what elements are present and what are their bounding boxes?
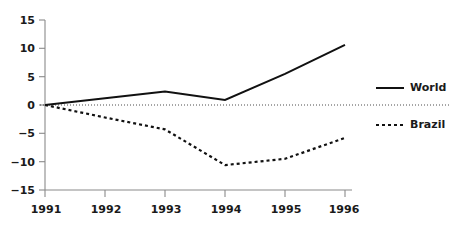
chart-canvas: 15 10 5 0 −5 −10 −15 1991 1992 1993 1994…	[0, 0, 449, 235]
x-tick-label-1995: 1995	[271, 203, 302, 216]
x-tick-label-1991: 1991	[31, 203, 62, 216]
line-chart: 15 10 5 0 −5 −10 −15 1991 1992 1993 1994…	[0, 0, 449, 235]
y-tick-label-10: 10	[20, 42, 36, 55]
legend-label-brazil: Brazil	[410, 118, 445, 131]
legend-label-world: World	[410, 81, 446, 94]
y-tick-label-5: 5	[27, 71, 35, 84]
y-tick-label-neg5: −5	[18, 127, 35, 140]
chart-background	[0, 0, 449, 235]
x-tick-label-1993: 1993	[151, 203, 182, 216]
y-tick-label-neg15: −15	[10, 184, 35, 197]
y-tick-label-15: 15	[20, 14, 35, 27]
x-tick-label-1996: 1996	[329, 203, 360, 216]
y-tick-label-neg10: −10	[10, 156, 35, 169]
y-tick-label-0: 0	[27, 99, 35, 112]
x-tick-label-1994: 1994	[211, 203, 242, 216]
x-tick-label-1992: 1992	[91, 203, 122, 216]
